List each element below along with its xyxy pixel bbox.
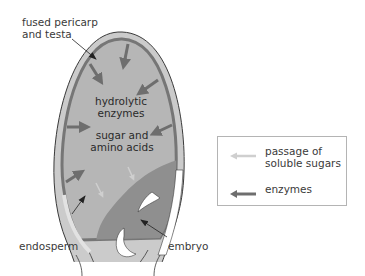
label-pericarp: fused pericarp and testa	[22, 16, 98, 40]
legend-enzymes-label: enzymes	[265, 183, 312, 195]
light-arrow-icon	[230, 145, 256, 155]
label-pericarp-line2: and testa	[22, 28, 98, 40]
label-hydrolytic-enzymes: hydrolytic enzymes	[86, 95, 156, 119]
legend-item-enzymes: enzymes	[218, 183, 312, 195]
label-sugar-line1: sugar and	[84, 129, 160, 141]
dark-arrow-icon	[230, 183, 256, 193]
label-hydrolytic-line2: enzymes	[86, 107, 156, 119]
legend-sugars-line2: soluble sugars	[265, 157, 341, 169]
label-embryo: embryo	[168, 240, 208, 252]
label-pericarp-line1: fused pericarp	[22, 16, 98, 28]
legend-item-sugars: passage of soluble sugars	[218, 145, 341, 169]
label-sugar-amino: sugar and amino acids	[84, 129, 160, 153]
legend-sugars-line1: passage of	[265, 145, 341, 157]
legend: passage of soluble sugars enzymes	[217, 136, 347, 206]
label-sugar-line2: amino acids	[84, 141, 160, 153]
label-hydrolytic-line1: hydrolytic	[86, 95, 156, 107]
label-endosperm: endosperm	[19, 240, 78, 252]
